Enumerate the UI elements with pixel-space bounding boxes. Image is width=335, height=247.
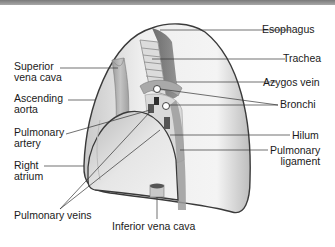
label-right-atrium: Right atrium [14,160,43,182]
label-hilum: Hilum [292,130,319,141]
label-line: ligament [270,156,320,167]
label-line: Inferior vena cava [112,221,195,232]
label-line: Pulmonary veins [14,210,92,221]
label-superior-vena-cava: Superior vena cava [14,61,62,83]
label-esophagus: Esophagus [262,24,315,35]
label-line: Azygos vein [263,77,320,88]
label-line: Esophagus [262,24,315,35]
label-pulmonary-veins: Pulmonary veins [14,210,92,221]
label-line: artery [14,138,64,149]
label-bronchi: Bronchi [280,99,316,110]
label-line: Trachea [283,53,321,64]
label-line: aorta [14,104,63,115]
label-line: Bronchi [280,99,316,110]
label-pulmonary-ligament: Pulmonary ligament [270,145,320,167]
bronchus-lower [163,103,170,110]
bronchus-upper [154,86,161,93]
label-line: Hilum [292,130,319,141]
label-line: atrium [14,171,43,182]
label-azygos-vein: Azygos vein [263,77,320,88]
label-line: vena cava [14,72,62,83]
label-pulmonary-artery: Pulmonary artery [14,127,64,149]
label-ascending-aorta: Ascending aorta [14,93,63,115]
label-trachea: Trachea [283,53,321,64]
label-inferior-vena-cava: Inferior vena cava [112,221,195,232]
